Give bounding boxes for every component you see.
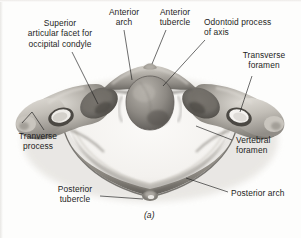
figure-caption: (a) (144, 210, 155, 220)
leader-superior-articular-facet (72, 52, 98, 104)
label-tranverse-process: Tranverse process (4, 131, 72, 152)
leader-posterior-arch (186, 178, 228, 192)
label-anterior-tubercle: Anterior tubercle (148, 7, 202, 28)
leader-posterior-tubercle (100, 196, 143, 199)
label-superior-articular-facet: Superior articular facet for occipital c… (8, 18, 112, 49)
anatomical-figure-atlas-vertebra: Superior articular facet for occipital c… (0, 0, 301, 238)
leader-vertebral-foramen (196, 126, 232, 140)
leader-odontoid-process (163, 40, 205, 86)
leader-anterior-tubercle (152, 30, 166, 64)
leader-tranverse-process (22, 112, 44, 130)
label-posterior-arch: Posterior arch (231, 188, 299, 198)
label-anterior-arch: Anterior arch (98, 7, 150, 28)
leader-anterior-arch (124, 30, 132, 80)
label-vertebral-foramen: Vertebral foramen (236, 135, 298, 156)
leader-transverse-foramen (240, 76, 252, 112)
label-posterior-tubercle: Posterior tubercle (46, 184, 104, 205)
label-odontoid-process: Odontoid process of axis (204, 17, 296, 38)
label-transverse-foramen: Transverse foramen (230, 50, 298, 71)
